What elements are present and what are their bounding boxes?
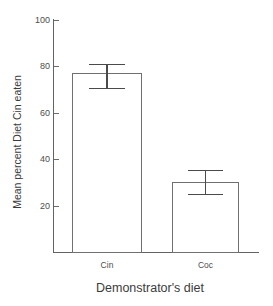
- y-axis-title: Mean percent Diet Cin eaten: [11, 75, 23, 209]
- y-tick-label-60: 60: [40, 108, 50, 118]
- x-tick-label-coc: Coc: [198, 260, 214, 270]
- x-axis-title: Demonstrator's diet: [96, 281, 205, 295]
- y-tick-label-100: 100: [35, 15, 50, 25]
- chart-figure: 100 80 60 40 20 Cin Coc Demonstrator's d…: [0, 0, 273, 306]
- x-tick-label-cin: Cin: [101, 260, 114, 270]
- y-tick-label-20: 20: [40, 201, 50, 211]
- y-tick-label-40: 40: [40, 154, 50, 164]
- bar-cin[interactable]: [73, 74, 142, 253]
- bar-chart-plot: 100 80 60 40 20 Cin Coc Demonstrator's d…: [0, 0, 273, 306]
- y-tick-label-80: 80: [40, 61, 50, 71]
